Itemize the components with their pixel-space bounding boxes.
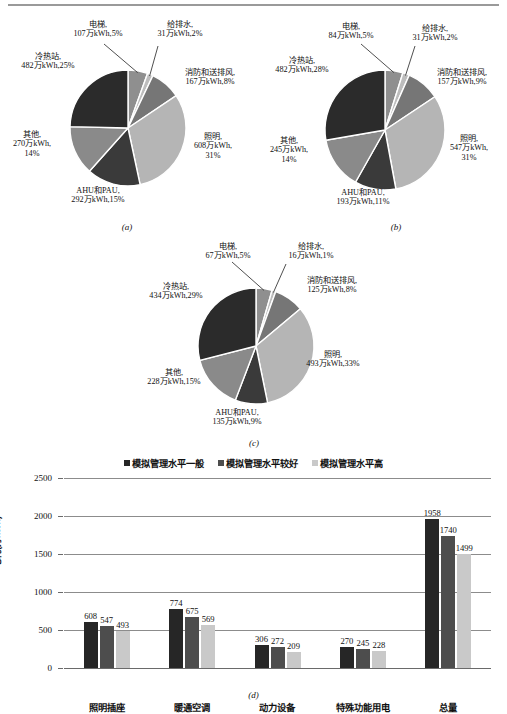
bar-3-series-3[interactable] [287,652,301,668]
y-axis-tick-label: 500 [10,625,52,635]
legend-swatch-icon [218,460,224,466]
pie-a-leader-line [104,44,138,73]
pie-c-label-fire-vent: 消防和送排风, 125万kWh,8% [286,276,378,295]
bar-value-label: 1740 [435,525,461,535]
legend-swatch-icon [124,460,130,466]
pie-chart-c-panel: 电梯, 67万kWh,5% 给排水, 16万kWh,1% 消防和送排风, 125… [128,238,382,452]
pie-b-label-water: 给排水, 31万kWh,2% [392,24,478,43]
pie-b-label-elevator: 电梯, 84万kWh,5% [308,22,394,41]
x-axis-category-label: 特殊功能用电 [320,700,405,714]
bar-value-label: 209 [281,641,307,651]
y-axis-tick-label: 0 [10,663,52,673]
pie-b-slice-cold-heat-station [325,70,385,140]
bar-2-series-1[interactable] [169,609,183,668]
pie-a-slice-cold-heat-station [70,70,128,128]
bar-4-series-3[interactable] [372,651,386,668]
bar-chart-plot-area: 05001000150020002500608547493照明插座7746755… [64,478,491,668]
pie-c-leader-line [273,264,286,293]
pie-c-label-other: 其他, 228万kWh,15% [128,368,220,387]
bar-5-series-1[interactable] [425,519,439,668]
pie-a-label-cold-heat: 冷热站, 482万kWh,25% [2,52,94,71]
bar-value-label: 228 [366,640,392,650]
pie-chart-a [0,10,254,210]
y-axis-tick-label: 2000 [10,511,52,521]
bar-value-label: 1499 [451,543,477,553]
pie-c-label-lighting: 照明, 493万kWh,33% [286,350,380,369]
top-divider-rule [8,4,499,6]
bar-2-series-3[interactable] [201,625,215,668]
y-axis-label: 电耗(万kWh) [0,516,3,568]
legend-item-3[interactable]: 模拟管理水平高 [312,456,383,470]
bar-2-series-2[interactable] [185,617,199,668]
legend-item-1[interactable]: 模拟管理水平一般 [124,456,204,470]
legend-item-2[interactable]: 模拟管理水平较好 [218,456,298,470]
pie-c-label-ahu-pau: AHU和PAU, 135万kWh,9% [184,408,290,427]
pie-b-label-ahu-pau: AHU和PAU, 193万kWh,11% [304,188,422,207]
gridline [64,478,491,479]
pie-chart-c [128,238,382,434]
y-axis-tick-label: 2500 [10,473,52,483]
pie-a-leader-line [150,46,158,76]
legend-swatch-icon [312,460,318,466]
legend-label: 模拟管理水平一般 [132,456,204,470]
legend-label: 模拟管理水平高 [320,456,383,470]
pie-b-label-cold-heat: 冷热站, 482万kWh,28% [256,56,348,75]
bar-3-series-1[interactable] [255,645,269,668]
bar-1-series-1[interactable] [84,622,98,668]
pie-a-label-ahu-pau: AHU和PAU, 292万kWh,15% [38,186,158,205]
subfigure-caption-c: (c) [234,438,274,448]
y-axis-tick [58,516,63,517]
legend-label: 模拟管理水平较好 [226,456,298,470]
bar-value-label: 493 [110,620,136,630]
y-axis-tick [58,630,63,631]
pie-c-label-elevator: 电梯, 67万kWh,5% [184,242,272,261]
x-axis-category-label: 暖通空调 [149,700,234,714]
bar-5-series-3[interactable] [457,554,471,668]
bar-1-series-2[interactable] [100,626,114,668]
pie-a-label-water: 给排水, 31万kWh,2% [137,20,223,39]
bar-chart-d-panel: 模拟管理水平一般模拟管理水平较好模拟管理水平高 0500100015002000… [0,452,507,711]
pie-chart-b-panel: 电梯, 84万kWh,5% 给排水, 31万kWh,2% 消防和送排风, 157… [256,10,507,235]
x-axis-category-label: 总量 [406,700,491,714]
pie-a-label-other: 其他, 270万kWh, 14% [0,130,64,158]
y-axis-tick-label: 1000 [10,587,52,597]
pie-b-label-other: 其他, 245万kWh, 14% [258,136,320,164]
pie-a-label-fire-vent: 消防和送排风, 167万kWh,8% [168,68,252,87]
pie-c-label-water: 给排水, 16万kWh,1% [268,242,354,261]
y-axis-tick [58,478,63,479]
subfigure-caption-a: (a) [107,222,147,232]
pie-c-leader-line [232,262,264,290]
bar-1-series-3[interactable] [116,631,130,668]
pie-chart-a-panel: 电梯, 107万kWh,5% 给排水, 31万kWh,2% 消防和送排风, 16… [0,10,254,235]
pie-c-label-cold-heat: 冷热站, 434万kWh,29% [128,282,224,301]
y-axis-tick [58,668,63,669]
pie-b-leader-line [361,44,394,73]
subfigure-caption-b: (b) [376,222,416,232]
pie-a-label-elevator: 电梯, 107万kWh,5% [55,20,141,39]
x-axis-category-label: 动力设备 [235,700,320,714]
bar-4-series-1[interactable] [340,647,354,668]
bar-value-label: 1958 [419,508,445,518]
y-axis-tick [58,592,63,593]
bar-5-series-2[interactable] [441,536,455,668]
x-axis-category-label: 照明插座 [64,700,149,714]
x-axis-baseline [64,668,491,669]
pie-b-label-lighting: 照明, 547万kWh, 31% [434,134,504,162]
pie-b-label-fire-vent: 消防和送排风, 157万kWh,9% [419,68,505,87]
bar-value-label: 569 [195,614,221,624]
bar-4-series-2[interactable] [356,649,370,668]
y-axis-tick-label: 1500 [10,549,52,559]
subfigure-caption-d: (d) [0,690,507,700]
pie-a-label-lighting: 照明, 608万kWh, 31% [180,132,246,160]
bar-chart-legend: 模拟管理水平一般模拟管理水平较好模拟管理水平高 [0,456,507,470]
y-axis-tick [58,554,63,555]
pie-b-leader-line [406,46,416,76]
